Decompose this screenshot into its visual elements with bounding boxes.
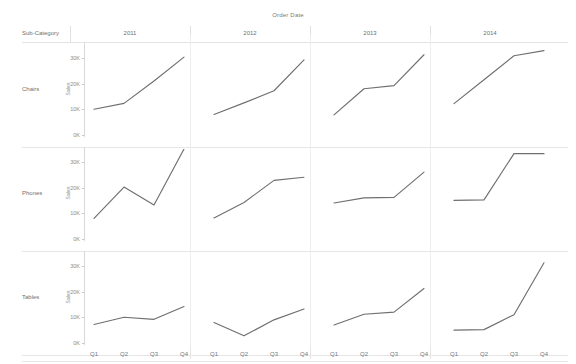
panel-phones-2013[interactable] [328,149,432,243]
quarter-tick-2012-Q1: Q1 [204,351,224,357]
panel-divider [430,139,431,251]
y-tick-label: 20K [64,289,80,295]
year-header-2012: 2012 [190,30,310,42]
y-tick-mark [82,84,84,85]
y-tick-mark [82,317,84,318]
header-rule [22,42,568,43]
sales-line [334,172,424,203]
year-header-2011: 2011 [70,30,190,42]
quarter-tick-2014-Q2: Q2 [474,351,494,357]
sales-line [454,154,544,201]
bottom-axis-rule [22,361,568,362]
quarter-tick-2012-Q2: Q2 [234,351,254,357]
y-tick-label: 10K [64,106,80,112]
sales-line [94,306,184,324]
panel-tables-2014[interactable] [448,253,552,347]
sales-line [454,263,544,330]
panel-chairs-2012[interactable] [208,45,312,139]
quarter-tick-2013-Q2: Q2 [354,351,374,357]
sub-category-label-phones: Phones [22,190,70,196]
sales-line [214,177,304,218]
trellis-chart-viz: Order Date Sub-Category 2011201220132014… [0,0,576,364]
y-tick-label: 30K [64,263,80,269]
y-tick-mark [82,188,84,189]
quarter-axis-separator [430,347,431,359]
quarter-tick-2013-Q3: Q3 [384,351,404,357]
quarter-tick-2014-Q3: Q3 [504,351,524,357]
panel-divider [430,243,431,355]
y-tick-mark [82,58,84,59]
y-tick-mark [82,266,84,267]
row-separator [22,251,568,252]
header-separator [70,26,71,42]
quarter-axis-separator [310,347,311,359]
quarter-tick-2011-Q3: Q3 [144,351,164,357]
panel-divider [190,243,191,355]
y-tick-label: 20K [64,185,80,191]
sub-category-label-tables: Tables [22,294,70,300]
quarter-tick-2013-Q1: Q1 [324,351,344,357]
sales-axis-title: Sales [65,173,71,213]
y-tick-mark [82,292,84,293]
y-tick-mark [82,109,84,110]
panel-phones-2012[interactable] [208,149,312,243]
sales-line [214,309,304,336]
quarter-tick-2011-Q4: Q4 [174,351,194,357]
panel-phones-2014[interactable] [448,149,552,243]
quarter-axis-separator [190,347,191,359]
panel-divider [310,35,311,147]
panel-tables-2011[interactable] [88,253,192,347]
y-tick-mark [82,213,84,214]
row-separator [22,147,568,148]
y-tick-label: 10K [64,314,80,320]
y-tick-label: 30K [64,159,80,165]
panel-phones-2011[interactable] [88,149,192,243]
order-date-title: Order Date [0,12,576,18]
quarter-tick-2012-Q3: Q3 [264,351,284,357]
quarter-tick-2013-Q4: Q4 [414,351,434,357]
y-tick-mark [82,135,84,136]
panel-tables-2012[interactable] [208,253,312,347]
panel-divider [190,139,191,251]
y-tick-label: 20K [64,81,80,87]
quarter-tick-2011-Q1: Q1 [84,351,104,357]
sales-axis-title: Sales [65,277,71,317]
sales-line [334,55,424,115]
sales-line [94,149,184,218]
panel-tables-2013[interactable] [328,253,432,347]
y-axis-line [84,43,85,137]
quarter-tick-2014-Q1: Q1 [444,351,464,357]
sales-line [454,51,544,104]
quarter-tick-2011-Q2: Q2 [114,351,134,357]
sales-axis-title: Sales [65,69,71,109]
y-tick-mark [82,162,84,163]
y-tick-mark [82,239,84,240]
panel-divider [310,243,311,355]
panel-divider [430,35,431,147]
y-tick-label: 30K [64,55,80,61]
y-axis-line [84,251,85,345]
y-tick-mark [82,343,84,344]
quarter-tick-2012-Q4: Q4 [294,351,314,357]
quarter-tick-2014-Q4: Q4 [534,351,554,357]
year-header-2014: 2014 [430,30,550,42]
y-tick-label: 0K [64,340,80,346]
panel-divider [310,139,311,251]
y-tick-label: 0K [64,132,80,138]
panel-chairs-2011[interactable] [88,45,192,139]
y-tick-label: 0K [64,236,80,242]
sub-category-label-chairs: Chairs [22,86,70,92]
year-header-2013: 2013 [310,30,430,42]
y-axis-line [84,147,85,241]
sales-line [334,288,424,325]
sales-line [214,60,304,115]
sub-category-header: Sub-Category [22,30,59,36]
panel-chairs-2013[interactable] [328,45,432,139]
y-tick-label: 10K [64,210,80,216]
panel-divider [190,35,191,147]
panel-chairs-2014[interactable] [448,45,552,139]
sales-line [94,57,184,109]
